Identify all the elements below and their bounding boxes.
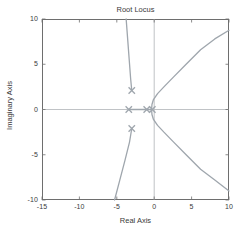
root-locus-figure: Root Locus Real Axis Imaginary Axis -15-… xyxy=(0,0,242,235)
y-tick-label: 10 xyxy=(10,15,38,23)
y-tick-label: 0 xyxy=(10,106,38,114)
x-tick-label: -10 xyxy=(74,203,84,211)
y-tick-label: 5 xyxy=(10,60,38,68)
x-tick-label: 10 xyxy=(225,203,233,211)
x-tick-label: -5 xyxy=(114,203,120,211)
locus-branch-upper-right-asymptote xyxy=(152,30,229,109)
x-axis-label: Real Axis xyxy=(42,216,229,225)
locus-branch-lower-left-asymptote xyxy=(115,129,132,201)
y-tick-label: -10 xyxy=(10,196,38,204)
x-tick-label: -15 xyxy=(37,203,47,211)
x-tick-label: 0 xyxy=(152,203,156,211)
locus-branch-lower-right-asymptote xyxy=(152,110,229,191)
chart-title: Root Locus xyxy=(42,5,229,14)
y-tick-label: -5 xyxy=(10,151,38,159)
x-tick-label: 5 xyxy=(190,203,194,211)
locus-branch-upper-left-asymptote xyxy=(126,19,132,91)
